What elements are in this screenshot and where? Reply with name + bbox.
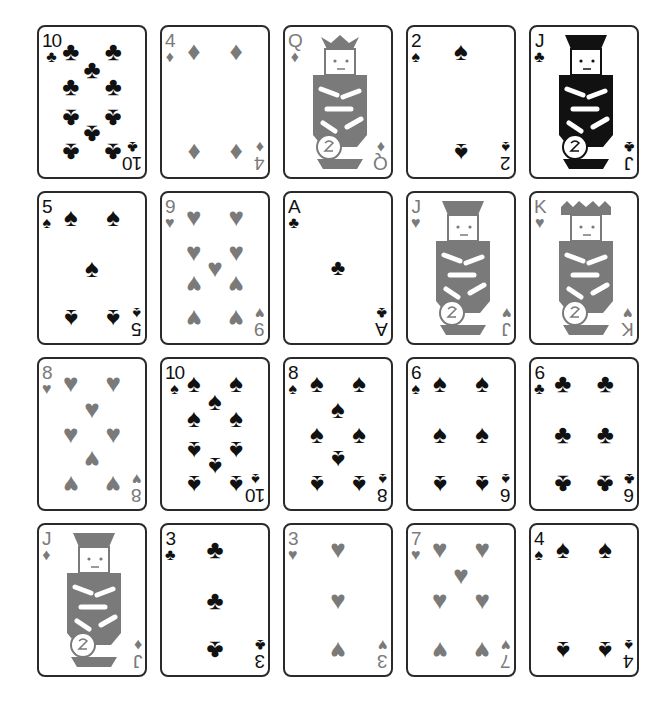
card-corner-index: 8 ♠ bbox=[288, 363, 298, 397]
card-corner-index: A ♣ bbox=[288, 197, 300, 231]
card-corner-index: 7 ♥ bbox=[411, 529, 421, 563]
spades-icon: ♠ bbox=[106, 306, 120, 332]
card-corner-index: 4 ♦ bbox=[255, 139, 265, 173]
spades-icon: ♠ bbox=[310, 370, 324, 396]
playing-card[interactable]: 8 ♠ 8 ♠ ♠♠♠♠♠♠♠♠ bbox=[283, 357, 393, 511]
spades-icon: ♠ bbox=[535, 547, 544, 563]
playing-card[interactable]: 8 ♥ 8 ♥ ♥♥♥♥♥♥♥♥ bbox=[37, 357, 147, 511]
clubs-icon: ♣ bbox=[62, 140, 79, 166]
playing-card[interactable]: Q ♦ Q ♦ bbox=[283, 25, 393, 179]
clubs-icon: ♣ bbox=[377, 305, 388, 321]
card-corner-index: 8 ♥ bbox=[42, 363, 52, 397]
hearts-icon: ♥ bbox=[474, 536, 489, 562]
card-corner-index: J ♣ bbox=[624, 139, 635, 173]
clubs-icon: ♣ bbox=[597, 472, 614, 498]
clubs-icon: ♣ bbox=[105, 140, 122, 166]
hearts-icon: ♥ bbox=[63, 421, 78, 447]
playing-card[interactable]: 10 ♣ 10 ♣ ♣♣♣♣♣♣♣♣♣♣ bbox=[37, 25, 147, 179]
hearts-icon: ♥ bbox=[378, 637, 388, 653]
spades-icon: ♠ bbox=[625, 637, 634, 653]
spades-icon: ♠ bbox=[331, 447, 345, 473]
clubs-icon: ♣ bbox=[105, 73, 122, 99]
card-corner-index: 6 ♠ bbox=[411, 363, 421, 397]
hearts-icon: ♥ bbox=[84, 396, 99, 422]
diamonds-icon: ♦ bbox=[187, 140, 200, 166]
hearts-icon: ♥ bbox=[186, 306, 201, 332]
card-corner-index: J ♥ bbox=[411, 197, 421, 231]
playing-card[interactable]: 2 ♠ 2 ♠ ♠♠ bbox=[406, 25, 516, 179]
hearts-icon: ♥ bbox=[411, 547, 421, 563]
hearts-icon: ♥ bbox=[453, 562, 468, 588]
card-corner-index: 4 ♠ bbox=[624, 637, 634, 671]
playing-card[interactable]: 10 ♠ 10 ♠ ♠♠♠♠♠♠♠♠♠♠ bbox=[160, 357, 270, 511]
playing-card[interactable]: 3 ♣ 3 ♣ ♣♣♣ bbox=[160, 523, 270, 677]
playing-card[interactable]: J ♦ J ♦ bbox=[37, 523, 147, 677]
card-corner-index: 10 ♣ bbox=[42, 31, 61, 65]
card-rank: 4 bbox=[255, 154, 265, 173]
hearts-icon: ♥ bbox=[228, 306, 243, 332]
spades-icon: ♠ bbox=[310, 421, 324, 447]
spades-icon: ♠ bbox=[170, 381, 179, 397]
clubs-icon: ♣ bbox=[554, 421, 571, 447]
card-rank: 6 bbox=[501, 486, 511, 505]
card-corner-index: 6 ♠ bbox=[501, 471, 511, 505]
playing-card[interactable]: J ♥ J ♥ bbox=[406, 191, 516, 345]
spades-icon: ♠ bbox=[475, 370, 489, 396]
spades-icon: ♠ bbox=[454, 140, 468, 166]
playing-card[interactable]: 7 ♥ 7 ♥ ♥♥♥♥♥♥♥ bbox=[406, 523, 516, 677]
diamonds-icon: ♦ bbox=[291, 49, 299, 65]
clubs-icon: ♣ bbox=[105, 38, 122, 64]
playing-card[interactable]: 9 ♥ 9 ♥ ♥♥♥♥♥♥♥♥♥ bbox=[160, 191, 270, 345]
clubs-icon: ♣ bbox=[206, 638, 223, 664]
spades-icon: ♠ bbox=[379, 471, 388, 487]
playing-card[interactable]: 4 ♠ 4 ♠ ♠♠♠♠ bbox=[529, 523, 639, 677]
hearts-icon: ♥ bbox=[228, 239, 243, 265]
spades-icon: ♠ bbox=[331, 396, 345, 422]
clubs-icon: ♣ bbox=[105, 106, 122, 132]
clubs-icon: ♣ bbox=[165, 547, 176, 563]
spades-icon: ♠ bbox=[556, 638, 570, 664]
playing-card[interactable]: 4 ♦ 4 ♦ ♦♦♦♦ bbox=[160, 25, 270, 179]
card-corner-index: 7 ♥ bbox=[501, 637, 511, 671]
card-corner-index: J ♦ bbox=[42, 529, 51, 563]
card-rank: 10 bbox=[246, 486, 265, 505]
card-rank: K bbox=[622, 320, 634, 339]
card-corner-index: J ♥ bbox=[502, 305, 512, 339]
clubs-icon: ♣ bbox=[289, 215, 300, 231]
card-rank: 6 bbox=[624, 486, 634, 505]
card-corner-index: 5 ♠ bbox=[42, 197, 52, 231]
clubs-icon: ♣ bbox=[624, 471, 635, 487]
playing-card[interactable]: A ♣ A ♣ ♣ bbox=[283, 191, 393, 345]
diamonds-icon: ♦ bbox=[134, 637, 142, 653]
card-corner-index: 6 ♣ bbox=[624, 471, 635, 505]
card-corner-index: 10 ♠ bbox=[165, 363, 184, 397]
spades-icon: ♠ bbox=[433, 421, 447, 447]
diamonds-icon: ♦ bbox=[42, 547, 50, 563]
clubs-icon: ♣ bbox=[83, 122, 100, 148]
hearts-icon: ♥ bbox=[535, 215, 545, 231]
spades-icon: ♠ bbox=[598, 638, 612, 664]
spades-icon: ♠ bbox=[187, 472, 201, 498]
spades-icon: ♠ bbox=[106, 204, 120, 230]
clubs-icon: ♣ bbox=[62, 106, 79, 132]
king-figure-icon bbox=[553, 201, 619, 335]
playing-card[interactable]: 6 ♣ 6 ♣ ♣♣♣♣♣♣ bbox=[529, 357, 639, 511]
clubs-icon: ♣ bbox=[46, 49, 57, 65]
clubs-icon: ♣ bbox=[83, 56, 100, 82]
playing-card[interactable]: 3 ♥ 3 ♥ ♥♥♥ bbox=[283, 523, 393, 677]
playing-card[interactable]: 5 ♠ 5 ♠ ♠♠♠♠♠ bbox=[37, 191, 147, 345]
clubs-icon: ♣ bbox=[127, 139, 138, 155]
clubs-icon: ♣ bbox=[206, 536, 223, 562]
card-rank: J bbox=[625, 154, 634, 173]
playing-card[interactable]: 6 ♠ 6 ♠ ♠♠♠♠♠♠ bbox=[406, 357, 516, 511]
spades-icon: ♠ bbox=[64, 204, 78, 230]
card-rank: Q bbox=[374, 154, 388, 173]
card-rank: 2 bbox=[501, 154, 511, 173]
hearts-icon: ♥ bbox=[63, 370, 78, 396]
hearts-icon: ♥ bbox=[502, 305, 512, 321]
playing-card[interactable]: J ♣ J ♣ bbox=[529, 25, 639, 179]
hearts-icon: ♥ bbox=[228, 204, 243, 230]
spades-icon: ♠ bbox=[556, 536, 570, 562]
playing-card[interactable]: K ♥ K ♥ bbox=[529, 191, 639, 345]
clubs-icon: ♣ bbox=[597, 421, 614, 447]
